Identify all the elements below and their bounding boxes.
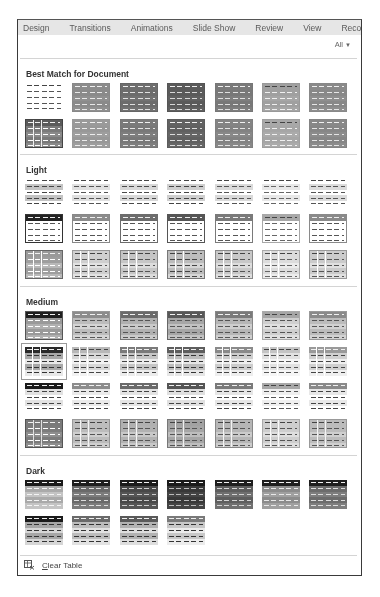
table-style-thumbnail[interactable]	[167, 214, 205, 243]
table-style-thumbnail[interactable]	[72, 214, 110, 243]
table-style-thumbnail[interactable]	[120, 83, 158, 112]
section-separator	[20, 58, 357, 59]
table-style-thumbnail[interactable]	[25, 516, 63, 545]
ribbon-tab-bar: DesignTransitionsAnimationsSlide ShowRev…	[18, 20, 361, 35]
table-style-thumbnail[interactable]	[167, 480, 205, 509]
table-style-thumbnail[interactable]	[72, 119, 110, 148]
section-separator	[20, 286, 357, 287]
table-style-thumbnail[interactable]	[120, 480, 158, 509]
table-style-thumbnail[interactable]	[25, 347, 63, 376]
table-style-thumbnail[interactable]	[72, 250, 110, 279]
table-style-thumbnail[interactable]	[167, 383, 205, 412]
section-title-light: Light	[26, 165, 47, 175]
chevron-down-icon: ▼	[345, 42, 351, 48]
table-style-thumbnail[interactable]	[25, 383, 63, 412]
table-style-thumbnail[interactable]	[72, 311, 110, 340]
table-style-thumbnail[interactable]	[25, 119, 63, 148]
table-style-thumbnail[interactable]	[25, 250, 63, 279]
table-style-thumbnail[interactable]	[120, 419, 158, 448]
table-style-thumbnail[interactable]	[309, 480, 347, 509]
table-style-thumbnail[interactable]	[72, 480, 110, 509]
table-style-thumbnail[interactable]	[25, 419, 63, 448]
tab-view[interactable]: View	[300, 23, 321, 33]
table-style-thumbnail[interactable]	[167, 178, 205, 207]
filter-dropdown[interactable]: All▼	[335, 40, 351, 49]
table-style-thumbnail[interactable]	[309, 178, 347, 207]
table-style-thumbnail[interactable]	[262, 250, 300, 279]
table-style-thumbnail[interactable]	[167, 419, 205, 448]
tab-animations[interactable]: Animations	[128, 23, 173, 33]
table-style-thumbnail[interactable]	[309, 383, 347, 412]
table-style-thumbnail[interactable]	[72, 178, 110, 207]
table-styles-gallery: DesignTransitionsAnimationsSlide ShowRev…	[17, 19, 362, 576]
tab-review[interactable]: Review	[252, 23, 283, 33]
table-style-thumbnail[interactable]	[120, 178, 158, 207]
table-style-thumbnail[interactable]	[72, 347, 110, 376]
table-style-thumbnail[interactable]	[120, 311, 158, 340]
table-style-thumbnail[interactable]	[262, 347, 300, 376]
table-style-thumbnail[interactable]	[309, 250, 347, 279]
table-style-thumbnail[interactable]	[25, 480, 63, 509]
section-separator	[20, 154, 357, 155]
table-style-thumbnail[interactable]	[25, 214, 63, 243]
table-style-thumbnail[interactable]	[25, 311, 63, 340]
section-title-dark: Dark	[26, 466, 45, 476]
footer-separator	[20, 555, 357, 556]
table-style-thumbnail[interactable]	[215, 250, 253, 279]
section-title-best-match-for-document: Best Match for Document	[26, 69, 129, 79]
tab-transitions[interactable]: Transitions	[66, 23, 110, 33]
table-style-thumbnail[interactable]	[167, 347, 205, 376]
section-separator	[20, 455, 357, 456]
tab-design[interactable]: Design	[20, 23, 49, 33]
table-style-thumbnail[interactable]	[167, 250, 205, 279]
table-style-thumbnail[interactable]	[215, 119, 253, 148]
table-style-thumbnail[interactable]	[309, 311, 347, 340]
filter-label: All	[335, 40, 343, 49]
section-title-medium: Medium	[26, 297, 58, 307]
table-style-thumbnail[interactable]	[309, 347, 347, 376]
table-style-thumbnail[interactable]	[262, 311, 300, 340]
table-style-thumbnail[interactable]	[215, 419, 253, 448]
table-style-thumbnail[interactable]	[25, 83, 63, 112]
table-style-thumbnail[interactable]	[120, 383, 158, 412]
table-style-thumbnail[interactable]	[215, 480, 253, 509]
table-style-thumbnail[interactable]	[309, 83, 347, 112]
table-style-thumbnail[interactable]	[167, 311, 205, 340]
table-style-thumbnail[interactable]	[167, 516, 205, 545]
table-style-thumbnail[interactable]	[262, 383, 300, 412]
table-style-thumbnail[interactable]	[215, 383, 253, 412]
table-style-thumbnail[interactable]	[72, 419, 110, 448]
table-style-thumbnail[interactable]	[215, 83, 253, 112]
tab-record[interactable]: Record	[338, 23, 361, 33]
table-style-thumbnail[interactable]	[120, 214, 158, 243]
table-style-thumbnail[interactable]	[309, 214, 347, 243]
table-style-thumbnail[interactable]	[262, 214, 300, 243]
table-style-thumbnail[interactable]	[215, 347, 253, 376]
table-style-thumbnail[interactable]	[120, 119, 158, 148]
table-style-thumbnail[interactable]	[215, 178, 253, 207]
table-style-thumbnail[interactable]	[167, 83, 205, 112]
table-style-thumbnail[interactable]	[72, 516, 110, 545]
table-style-thumbnail[interactable]	[262, 119, 300, 148]
table-style-thumbnail[interactable]	[262, 83, 300, 112]
table-style-thumbnail[interactable]	[167, 119, 205, 148]
table-style-thumbnail[interactable]	[309, 419, 347, 448]
table-style-thumbnail[interactable]	[309, 119, 347, 148]
table-style-thumbnail[interactable]	[120, 250, 158, 279]
table-style-thumbnail[interactable]	[262, 419, 300, 448]
tab-slide-show[interactable]: Slide Show	[190, 23, 236, 33]
table-style-thumbnail[interactable]	[120, 347, 158, 376]
table-style-thumbnail[interactable]	[262, 480, 300, 509]
clear-table-icon	[24, 560, 35, 570]
clear-table-label: Clear Table	[42, 561, 82, 570]
table-style-thumbnail[interactable]	[25, 178, 63, 207]
table-style-thumbnail[interactable]	[262, 178, 300, 207]
table-style-thumbnail[interactable]	[72, 83, 110, 112]
table-style-thumbnail[interactable]	[72, 383, 110, 412]
clear-table-button[interactable]: Clear Table	[24, 560, 82, 570]
table-style-thumbnail[interactable]	[120, 516, 158, 545]
table-style-thumbnail[interactable]	[215, 214, 253, 243]
table-style-thumbnail[interactable]	[215, 311, 253, 340]
